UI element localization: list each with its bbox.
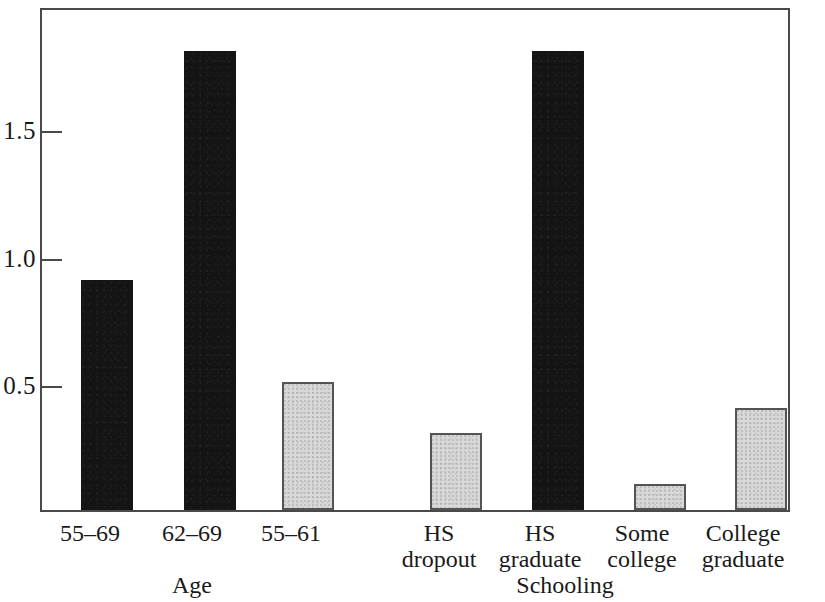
bar-chart-figure: 1.5 1.0 0.5 55–69 62–69 55–61 HS dropout… <box>0 0 825 602</box>
category-label-schooling-college-graduate: College graduate <box>668 520 818 572</box>
y-tick-label-3: 0.5 <box>0 373 36 398</box>
y-tick-mark-1 <box>42 131 62 133</box>
group-label-schooling: Schooling <box>490 572 640 598</box>
y-tick-mark-2 <box>42 259 62 261</box>
bar-schooling-some-college <box>634 484 686 510</box>
bar-age-55-61 <box>282 382 334 510</box>
y-tick-label-2: 1.0 <box>0 246 36 271</box>
bar-schooling-college-graduate <box>735 408 787 510</box>
bar-schooling-hs-graduate <box>532 51 584 510</box>
category-label-age-55-61: 55–61 <box>216 520 366 546</box>
bar-age-62-69 <box>184 51 236 510</box>
bar-schooling-hs-dropout <box>430 433 482 510</box>
y-tick-mark-3 <box>42 386 62 388</box>
bar-age-55-69 <box>81 280 133 510</box>
plot-area <box>40 8 790 512</box>
y-tick-label-1: 1.5 <box>0 118 36 143</box>
group-label-age: Age <box>117 572 267 598</box>
